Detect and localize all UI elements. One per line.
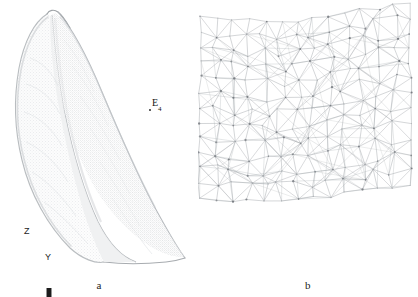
axis-label-z: Z	[24, 227, 30, 236]
point-label-e4: E4	[152, 98, 162, 108]
panel-caption-a: a	[0, 280, 198, 291]
axis-label-y: Y	[45, 253, 51, 262]
figure-root: E4 Z Y a b	[0, 0, 418, 297]
panel-a: E4 Z Y a	[0, 0, 198, 297]
point-marker-e4	[149, 109, 151, 111]
panel-b: b	[198, 0, 418, 297]
panel-caption-b: b	[198, 280, 418, 291]
mesh-edges	[198, 3, 412, 202]
panel-b-canvas	[198, 0, 418, 268]
triangulated-mesh-closeup	[198, 0, 418, 268]
